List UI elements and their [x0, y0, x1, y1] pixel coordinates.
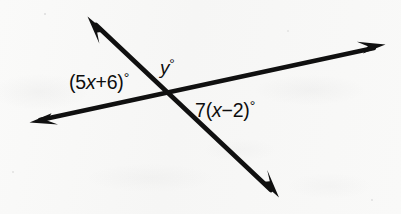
line-a-arrowhead-end	[262, 170, 280, 198]
angle-label-left: (5x+6)°	[69, 71, 129, 92]
angle-label-left-prefix: (5	[69, 71, 86, 93]
angle-label-top: y°	[160, 57, 175, 77]
angle-label-left-suffix: +6)	[96, 71, 124, 93]
degree-symbol-icon: °	[250, 98, 255, 114]
angle-label-left-variable: x	[86, 71, 96, 93]
geometry-figure: (5x+6)° y° 7(x−2)°	[0, 0, 401, 214]
angle-label-top-variable: y	[160, 57, 169, 78]
degree-symbol-icon: °	[169, 56, 174, 71]
degree-symbol-icon: °	[124, 70, 129, 86]
angle-label-right-suffix: −2)	[222, 99, 250, 121]
angle-label-right: 7(x−2)°	[195, 99, 255, 120]
angle-label-right-variable: x	[212, 99, 222, 121]
angle-label-right-prefix: 7(	[195, 99, 212, 121]
line-a-arrowhead-start	[88, 17, 106, 44]
